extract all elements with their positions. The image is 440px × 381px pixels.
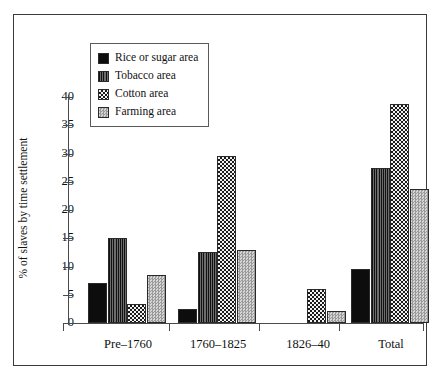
chart-frame: % of slaves by time settlement 051015202…	[13, 14, 427, 366]
bar	[147, 275, 166, 323]
bar	[178, 309, 197, 323]
bar	[108, 238, 127, 323]
x-axis-tick	[259, 323, 260, 331]
legend-swatch-rice-or-sugar-area	[98, 53, 109, 64]
bar	[410, 189, 429, 323]
legend-swatch-farming-area	[98, 107, 109, 118]
y-axis-tick	[63, 295, 73, 296]
y-axis-tick	[63, 125, 73, 126]
legend-item: Cotton area	[98, 85, 201, 103]
legend-label: Cotton area	[115, 88, 168, 100]
bar	[371, 168, 390, 323]
bar	[327, 311, 346, 323]
legend-item: Tobacco area	[98, 67, 201, 85]
x-axis-line	[63, 323, 423, 324]
legend-label: Tobacco area	[115, 70, 176, 82]
x-axis-tick	[169, 323, 170, 331]
legend-swatch-cotton-area	[98, 89, 109, 100]
y-axis-tick	[63, 182, 73, 183]
legend-label: Farming area	[115, 106, 176, 118]
bar	[307, 289, 326, 323]
legend-item: Farming area	[98, 103, 201, 121]
x-axis-tick	[63, 323, 64, 331]
legend-item: Rice or sugar area	[98, 49, 201, 67]
y-axis-tick	[63, 238, 73, 239]
y-axis-tick-labels: 0510152025303540	[24, 15, 74, 381]
bar	[88, 283, 107, 323]
y-axis-tick	[63, 97, 73, 98]
chart-legend: Rice or sugar area Tobacco area Cotton a…	[90, 43, 209, 127]
legend-swatch-tobacco-area	[98, 71, 109, 82]
chart-figure: % of slaves by time settlement 051015202…	[0, 0, 440, 381]
bar	[127, 304, 146, 323]
x-axis-tick-label: Total	[331, 337, 440, 352]
bars-container	[68, 97, 423, 323]
plot-area	[68, 97, 423, 323]
y-axis-tick	[63, 267, 73, 268]
x-axis-tick	[423, 323, 424, 331]
bar	[351, 269, 370, 323]
bar	[390, 104, 409, 323]
legend-label: Rice or sugar area	[115, 52, 198, 64]
y-axis-tick	[63, 323, 73, 324]
bar	[237, 250, 256, 323]
bar	[198, 252, 217, 323]
x-axis-tick	[339, 323, 340, 331]
y-axis-tick	[63, 154, 73, 155]
bar	[217, 156, 236, 323]
y-axis-tick	[63, 210, 73, 211]
